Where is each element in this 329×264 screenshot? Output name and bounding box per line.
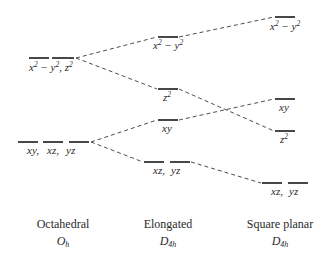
connector-el-xzyz-to-sp-xzyz: [191, 162, 261, 183]
point-group-label-oh: Oh: [57, 234, 70, 249]
level-sp-z2: z2: [275, 131, 295, 145]
level-sp-x2y2: x2 − y2: [269, 17, 300, 32]
orbital-label-x2y2: x2 − y2: [152, 38, 183, 51]
point-group-label-d4h: D4h: [159, 234, 177, 249]
point-group-label-d4h: D4h: [271, 234, 289, 249]
orbital-label-xy: xy,: [26, 144, 39, 156]
orbital-label-yz: yz: [288, 185, 299, 197]
orbital-label-x2y2-z2: x2 − y2, z2: [28, 60, 73, 73]
orbital-label-xz: xz,: [46, 144, 59, 156]
level-el-xzyz: xz, yz: [144, 162, 190, 176]
orbital-label-z2: z2: [162, 90, 171, 103]
column-octahedral: x2 − y2, z2 xy, xz, yz Octahedral Oh: [18, 58, 90, 249]
orbital-label-xy: xy: [161, 122, 172, 134]
connector-el-z2-to-sp-z2: [179, 89, 274, 131]
level-el-x2y2: x2 − y2: [152, 37, 183, 51]
level-el-z2: z2: [158, 89, 178, 103]
connector-oh-eg-to-el-x2y2: [76, 37, 157, 58]
orbital-label-xy: xy: [278, 101, 289, 113]
geometry-label-octahedral: Octahedral: [37, 217, 90, 231]
connector-oh-eg-to-el-z2: [76, 58, 157, 89]
level-oh-eg: x2 − y2, z2: [28, 58, 74, 73]
column-elongated: x2 − y2 z2 xy xz, yz Elongated D4h: [144, 37, 193, 249]
orbital-label-xz: xz,: [152, 164, 165, 176]
orbital-label-yz: yz: [65, 144, 76, 156]
geometry-label-square-planar: Square planar: [247, 217, 313, 231]
orbital-label-xz: xz,: [270, 185, 283, 197]
level-oh-t2g: xy, xz, yz: [18, 142, 89, 156]
connector-oh-t2g-to-el-xy: [91, 120, 157, 142]
orbital-label-z2: z2: [279, 132, 288, 145]
orbital-label-x2y2: x2 − y2: [269, 19, 300, 32]
connector-oh-t2g-to-el-xzyz: [91, 142, 143, 162]
geometry-label-elongated: Elongated: [144, 217, 193, 231]
level-sp-xy: xy: [275, 99, 295, 113]
level-sp-xzyz: xz, yz: [262, 183, 308, 197]
connector-el-x2y2-to-sp-x2y2: [179, 17, 274, 37]
orbital-label-yz: yz: [170, 164, 181, 176]
level-el-xy: xy: [158, 120, 178, 134]
column-square-planar: x2 − y2 xy z2 xz, yz Square planar D4h: [247, 17, 313, 249]
connector-el-xy-to-sp-xy: [179, 99, 274, 120]
d-orbital-splitting-diagram: x2 − y2, z2 xy, xz, yz Octahedral Oh x2 …: [0, 0, 329, 264]
